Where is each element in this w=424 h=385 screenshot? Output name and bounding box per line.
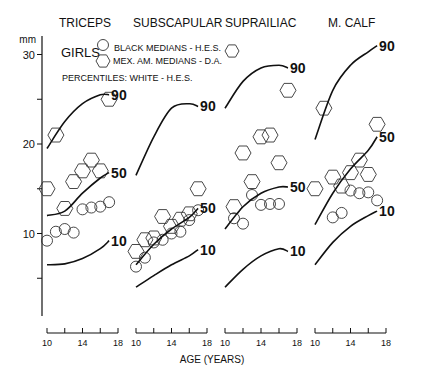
- mex-am-median-point: [244, 175, 260, 189]
- x-tick-label: 14: [256, 338, 266, 348]
- x-tick-label: 14: [345, 338, 355, 348]
- mex-am-median-point: [262, 128, 278, 142]
- percentile-90-curve: [136, 104, 198, 176]
- black-median-point: [104, 197, 115, 208]
- percentile-label: 90: [379, 38, 395, 54]
- x-tick-label: 10: [220, 338, 230, 348]
- mex-am-median-point: [307, 182, 323, 196]
- panel-subscapular: 905010101418: [128, 98, 216, 348]
- panel-m-calf: 905010101418: [307, 38, 395, 348]
- black-median-point: [42, 235, 53, 246]
- y-unit-label: mm: [19, 34, 36, 45]
- mex-am-median-point: [360, 168, 376, 182]
- legend-mex-medians: MEX. AM. MEDIANS - D.A.: [113, 56, 222, 66]
- x-axis-title: AGE (YEARS): [180, 354, 244, 365]
- mex-am-median-point: [325, 170, 341, 184]
- legend-black-medians: BLACK MEDIANS - H.E.S.: [114, 43, 221, 53]
- percentile-label: 90: [290, 60, 306, 76]
- y-tick-label: 30: [23, 49, 35, 61]
- panel-title: TRICEPS: [59, 16, 111, 30]
- mex-am-median-point: [271, 156, 287, 170]
- percentile-50-curve: [47, 173, 109, 216]
- x-tick-label: 10: [310, 338, 320, 348]
- percentile-10-curve: [225, 249, 288, 288]
- x-tick-label: 18: [292, 338, 302, 348]
- y-tick-label: 10: [23, 228, 35, 240]
- skinfold-chart: 302010mmTRICEPSSUBSCAPULARSUPRAILIACM. C…: [0, 0, 424, 385]
- x-tick-label: 18: [381, 338, 391, 348]
- percentile-90-curve: [225, 65, 288, 108]
- hexagon-marker-icon: [96, 55, 110, 67]
- x-tick-label: 14: [166, 338, 176, 348]
- percentile-label: 10: [111, 233, 127, 249]
- black-median-point: [238, 218, 249, 229]
- mex-am-median-point: [155, 210, 171, 224]
- percentile-label: 50: [200, 200, 216, 216]
- percentile-10-curve: [47, 241, 109, 265]
- black-median-point: [131, 261, 142, 272]
- mex-am-median-point: [83, 153, 99, 167]
- x-tick-label: 18: [202, 338, 212, 348]
- percentile-10-curve: [136, 250, 198, 288]
- y-tick-label: 20: [23, 138, 35, 150]
- black-median-point: [68, 227, 79, 238]
- percentile-label: 90: [111, 87, 127, 103]
- panel-triceps: 905010101418: [39, 87, 127, 348]
- mex-am-median-point: [92, 164, 108, 178]
- mex-am-median-point: [280, 83, 296, 97]
- percentile-label: 50: [111, 165, 127, 181]
- panel-suprailiac: 905010101418: [220, 60, 306, 348]
- percentile-label: 50: [290, 179, 306, 195]
- percentile-90-curve: [47, 94, 109, 148]
- x-tick-label: 14: [77, 338, 87, 348]
- percentile-label: 90: [200, 98, 216, 114]
- x-tick-label: 10: [131, 338, 141, 348]
- percentile-90-curve: [315, 46, 377, 140]
- legend-girls: GIRLS: [61, 45, 100, 60]
- percentile-label: 10: [379, 203, 395, 219]
- mex-am-median-point: [190, 182, 206, 196]
- black-median-point: [336, 207, 347, 218]
- x-tick-label: 10: [42, 338, 52, 348]
- hexagon-marker: [225, 45, 239, 57]
- panel-title: M. CALF: [328, 16, 375, 30]
- legend-percentiles: PERCENTILES: WHITE - H.E.S.: [62, 73, 193, 83]
- mex-am-median-point: [66, 175, 82, 189]
- mex-am-median-point: [75, 164, 91, 178]
- percentile-10-curve: [315, 211, 377, 265]
- mex-am-median-point: [235, 146, 251, 160]
- percentile-label: 10: [290, 243, 306, 259]
- percentile-label: 10: [200, 242, 216, 258]
- mex-am-median-point: [343, 166, 359, 180]
- x-tick-label: 18: [113, 338, 123, 348]
- percentile-label: 50: [379, 129, 395, 145]
- panel-title: SUBSCAPULAR: [133, 16, 223, 30]
- panel-title: SUPRAILIAC: [225, 16, 297, 30]
